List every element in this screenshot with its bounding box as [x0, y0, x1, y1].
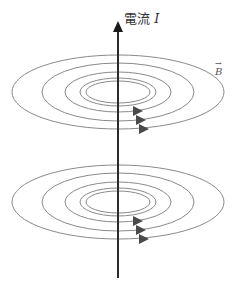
current-label: 電流 I — [124, 8, 159, 27]
current-direction-arrow-icon — [113, 21, 123, 32]
vector-arrow-icon: → — [215, 59, 222, 68]
current-variable: I — [154, 11, 159, 26]
magnetic-field-label: → B — [215, 66, 222, 77]
current-label-text: 電流 — [124, 11, 150, 26]
field-direction-arrow-icon — [133, 106, 143, 116]
magnetic-field-diagram — [0, 0, 237, 292]
field-direction-arrow-icon — [139, 124, 149, 134]
field-direction-arrow-icon — [136, 115, 146, 125]
field-direction-arrow-icon — [136, 225, 146, 235]
field-direction-arrow-icon — [139, 234, 149, 244]
field-direction-arrow-icon — [133, 216, 143, 226]
